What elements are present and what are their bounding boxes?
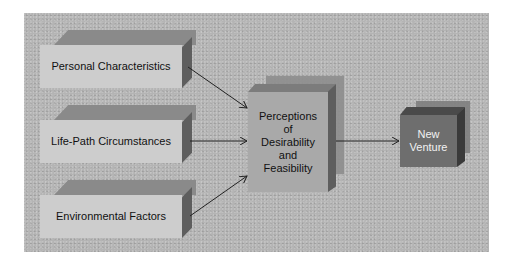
arrow-personal-to-perceptions bbox=[188, 67, 247, 108]
arrow-environmental-to-perceptions bbox=[190, 176, 247, 216]
arrows-layer bbox=[0, 0, 513, 265]
